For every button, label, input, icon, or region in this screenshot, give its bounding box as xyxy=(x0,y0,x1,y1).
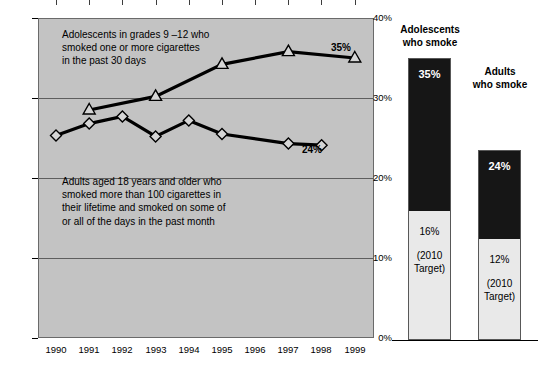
x-axis-label-1999: 1999 xyxy=(335,344,375,355)
x-axis-tick-1993 xyxy=(156,0,157,5)
adults-bar-target-value: 12% xyxy=(479,253,520,266)
adults-bar-baseline xyxy=(464,340,538,341)
adolescents-bar-target-value: 16% xyxy=(409,225,450,238)
adult-markers xyxy=(51,111,328,151)
annotation-adolescents: Adolescents in grades 9 –12 who smoked o… xyxy=(62,28,209,68)
adolescents-bar-title: Adolescents who smoke xyxy=(388,24,472,49)
x-axis-tick-1997 xyxy=(288,0,289,5)
x-axis-tick-1990 xyxy=(56,0,57,5)
chart-figure: 40% 30% 20% 10% 0% xyxy=(0,0,538,365)
adolescent-end-value-label: 35% xyxy=(331,42,351,53)
adolescents-bar: 35% 16% (2010 Target) xyxy=(408,58,451,340)
y-axis-tick-0 xyxy=(32,338,38,339)
x-axis-tick-1992 xyxy=(122,0,123,5)
adults-bar-current-value: 24% xyxy=(479,160,520,172)
adolescents-bar-baseline xyxy=(392,340,472,341)
x-axis-tick-1994 xyxy=(189,0,190,5)
x-axis-tick-1995 xyxy=(222,0,223,5)
adolescents-bar-target-note: (2010 Target) xyxy=(409,249,450,275)
x-axis-tick-1991 xyxy=(89,0,90,5)
adults-bar: 24% 12% (2010 Target) xyxy=(478,150,521,340)
line-chart-panel: 40% 30% 20% 10% 0% xyxy=(0,0,392,365)
x-axis-tick-1996 xyxy=(255,0,256,5)
adolescents-bar-current-value: 35% xyxy=(409,68,450,80)
adults-bar-target-note: (2010 Target) xyxy=(479,277,520,303)
x-axis-tick-1998 xyxy=(321,0,322,5)
adults-bar-title: Adults who smoke xyxy=(462,66,538,91)
adolescents-bar-current-segment xyxy=(409,59,450,211)
adult-end-value-label: 24% xyxy=(302,144,322,155)
annotation-adults: Adults aged 18 years and older who smoke… xyxy=(62,175,225,228)
x-axis-tick-1999 xyxy=(355,0,356,5)
